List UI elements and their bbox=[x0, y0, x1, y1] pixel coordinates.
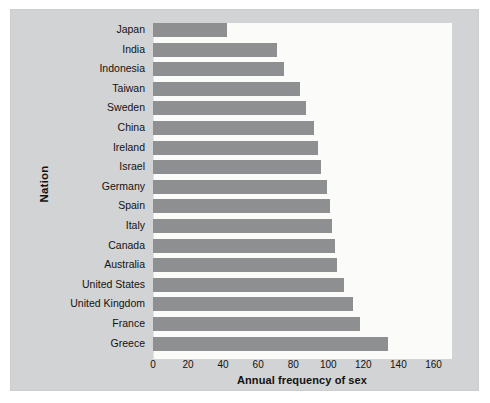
bar bbox=[153, 219, 332, 233]
bar-row: United States bbox=[11, 278, 478, 292]
bar-category-label: Ireland bbox=[11, 140, 145, 154]
bar bbox=[153, 141, 318, 155]
bar-row: China bbox=[11, 121, 478, 135]
bar-row: India bbox=[11, 43, 478, 57]
chart-panel: Nation JapanIndiaIndonesiaTaiwanSwedenCh… bbox=[11, 10, 478, 390]
bar-row: Sweden bbox=[11, 101, 478, 115]
x-axis: Annual frequency of sex 0204060801001201… bbox=[11, 359, 478, 390]
bar-row: Taiwan bbox=[11, 82, 478, 96]
bar-category-label: France bbox=[11, 316, 145, 330]
x-tick-label: 100 bbox=[320, 359, 337, 371]
bar-category-label: Japan bbox=[11, 22, 145, 36]
bar bbox=[153, 23, 227, 37]
bar-rows: JapanIndiaIndonesiaTaiwanSwedenChinaIrel… bbox=[11, 23, 478, 359]
bar bbox=[153, 239, 335, 253]
chart-figure: Nation JapanIndiaIndonesiaTaiwanSwedenCh… bbox=[0, 0, 490, 403]
bar-row: Spain bbox=[11, 199, 478, 213]
bar-category-label: Sweden bbox=[11, 100, 145, 114]
bar bbox=[153, 337, 388, 351]
bar-row: France bbox=[11, 317, 478, 331]
x-axis-title: Annual frequency of sex bbox=[153, 374, 451, 386]
bar bbox=[153, 258, 337, 272]
x-tick-label: 120 bbox=[355, 359, 372, 371]
x-tick-label: 0 bbox=[150, 359, 156, 371]
x-tick-label: 140 bbox=[390, 359, 407, 371]
bar-row: Greece bbox=[11, 337, 478, 351]
bar-row: Canada bbox=[11, 239, 478, 253]
bar-category-label: Italy bbox=[11, 218, 145, 232]
bar-category-label: United Kingdom bbox=[11, 296, 145, 310]
bar bbox=[153, 121, 314, 135]
bar-row: Italy bbox=[11, 219, 478, 233]
bar bbox=[153, 43, 277, 57]
bar bbox=[153, 278, 344, 292]
bar-row: United Kingdom bbox=[11, 297, 478, 311]
bar bbox=[153, 180, 327, 194]
bar-row: Japan bbox=[11, 23, 478, 37]
bar-category-label: Canada bbox=[11, 238, 145, 252]
x-tick-label: 160 bbox=[425, 359, 442, 371]
bar-category-label: Germany bbox=[11, 179, 145, 193]
bar bbox=[153, 297, 353, 311]
bar-category-label: Taiwan bbox=[11, 81, 145, 95]
bar bbox=[153, 160, 321, 174]
bar bbox=[153, 62, 284, 76]
x-tick-label: 60 bbox=[253, 359, 264, 371]
bar-category-label: Australia bbox=[11, 257, 145, 271]
bar bbox=[153, 101, 306, 115]
bar-category-label: India bbox=[11, 42, 145, 56]
bar-row: Ireland bbox=[11, 141, 478, 155]
bar-category-label: Indonesia bbox=[11, 61, 145, 75]
x-tick-label: 40 bbox=[218, 359, 229, 371]
bar-row: Indonesia bbox=[11, 62, 478, 76]
bar bbox=[153, 199, 330, 213]
x-tick-label: 20 bbox=[182, 359, 193, 371]
bar-row: Israel bbox=[11, 160, 478, 174]
bar-category-label: Spain bbox=[11, 198, 145, 212]
bar bbox=[153, 82, 300, 96]
bar-category-label: China bbox=[11, 120, 145, 134]
bar-category-label: Israel bbox=[11, 159, 145, 173]
bar-row: Germany bbox=[11, 180, 478, 194]
bar bbox=[153, 317, 360, 331]
x-tick-label: 80 bbox=[288, 359, 299, 371]
bar-category-label: Greece bbox=[11, 336, 145, 350]
bar-category-label: United States bbox=[11, 277, 145, 291]
bar-row: Australia bbox=[11, 258, 478, 272]
